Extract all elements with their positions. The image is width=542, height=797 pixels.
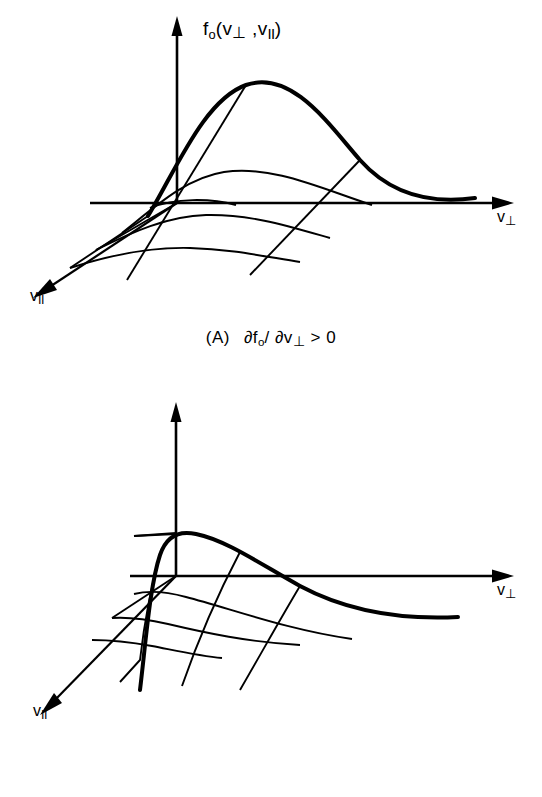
panel-b-surface-drawing bbox=[0, 390, 542, 730]
panel-a-depth-axis bbox=[33, 203, 177, 298]
panel-a-mesh-lines bbox=[70, 85, 360, 280]
panel-a-vertical-axis-label: fo(v⊥ ,vII) bbox=[203, 18, 281, 42]
figure-root: fo(v⊥ ,vII) v⊥ vII (A)∂fo/ ∂v⊥ > 0 bbox=[0, 0, 542, 797]
panel-b: v⊥ vII (B)vT⊥> v TII bbox=[0, 390, 542, 790]
panel-b-plot: v⊥ vII bbox=[0, 390, 542, 730]
panel-a-horizontal-axis-label: v⊥ bbox=[497, 208, 516, 228]
panel-a-plot: fo(v⊥ ,vII) v⊥ vII bbox=[0, 0, 542, 320]
panel-b-vertical-axis bbox=[171, 402, 182, 576]
panel-a-caption-body: ∂fo/ ∂v⊥ > 0 bbox=[244, 328, 336, 347]
panel-b-slice-1-bold bbox=[140, 533, 458, 690]
panel-a-slice-1-bold bbox=[148, 82, 475, 216]
panel-b-depth-axis bbox=[40, 576, 176, 715]
panel-b-depth-axis-label: vII bbox=[33, 702, 47, 722]
panel-a-caption-tag: (A) bbox=[206, 328, 230, 347]
panel-a-surface-drawing bbox=[0, 0, 542, 320]
panel-a-depth-axis-label: vII bbox=[30, 287, 44, 307]
panel-a: fo(v⊥ ,vII) v⊥ vII (A)∂fo/ ∂v⊥ > 0 bbox=[0, 0, 542, 370]
panel-b-horizontal-axis bbox=[130, 570, 514, 583]
panel-b-slice-2 bbox=[134, 592, 352, 639]
panel-a-caption: (A)∂fo/ ∂v⊥ > 0 bbox=[0, 328, 542, 349]
panel-b-horizontal-axis-label: v⊥ bbox=[497, 581, 516, 601]
